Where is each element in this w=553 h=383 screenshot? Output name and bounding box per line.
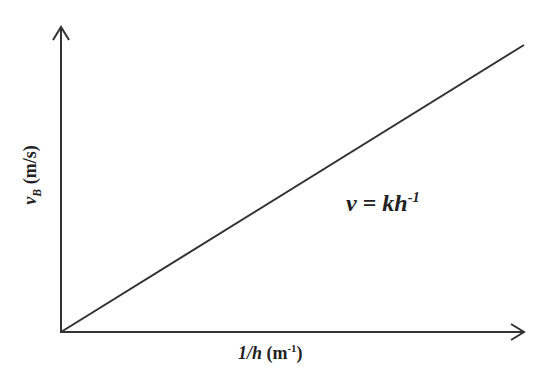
chart-plot [0, 0, 553, 383]
y-axis-label: vB (m/s) [15, 135, 45, 215]
y-axis [53, 27, 69, 333]
x-axis-label: 1/h (m-1) [238, 343, 303, 364]
equation-annotation: v = kh-1 [346, 190, 420, 217]
x-axis [60, 324, 524, 340]
data-line [61, 45, 524, 332]
